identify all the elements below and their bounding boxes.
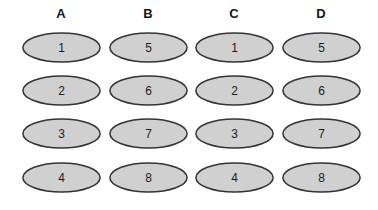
node-label: 8 (285, 162, 358, 193)
node-b-3[interactable]: 7 (109, 118, 188, 149)
node-label: 3 (198, 118, 271, 149)
node-label: 2 (25, 75, 98, 106)
node-a-1[interactable]: 1 (22, 32, 101, 63)
node-grid: 1 2 3 4 5 (0, 0, 378, 210)
node-d-2[interactable]: 6 (282, 75, 361, 106)
node-d-4[interactable]: 8 (282, 162, 361, 193)
node-label: 2 (198, 75, 271, 106)
node-label: 1 (25, 32, 98, 63)
node-label: 4 (25, 162, 98, 193)
ellipse-grid-diagram: A B C D 1 2 3 4 (0, 0, 378, 210)
node-label: 6 (112, 75, 185, 106)
node-label: 6 (285, 75, 358, 106)
node-label: 7 (112, 118, 185, 149)
node-label: 8 (112, 162, 185, 193)
node-a-4[interactable]: 4 (22, 162, 101, 193)
node-d-1[interactable]: 5 (282, 32, 361, 63)
node-a-3[interactable]: 3 (22, 118, 101, 149)
node-label: 4 (198, 162, 271, 193)
node-c-1[interactable]: 1 (195, 32, 274, 63)
node-label: 1 (198, 32, 271, 63)
node-c-3[interactable]: 3 (195, 118, 274, 149)
node-b-4[interactable]: 8 (109, 162, 188, 193)
node-label: 5 (112, 32, 185, 63)
node-label: 7 (285, 118, 358, 149)
node-d-3[interactable]: 7 (282, 118, 361, 149)
node-label: 5 (285, 32, 358, 63)
node-b-2[interactable]: 6 (109, 75, 188, 106)
node-c-2[interactable]: 2 (195, 75, 274, 106)
node-a-2[interactable]: 2 (22, 75, 101, 106)
node-label: 3 (25, 118, 98, 149)
node-c-4[interactable]: 4 (195, 162, 274, 193)
node-b-1[interactable]: 5 (109, 32, 188, 63)
